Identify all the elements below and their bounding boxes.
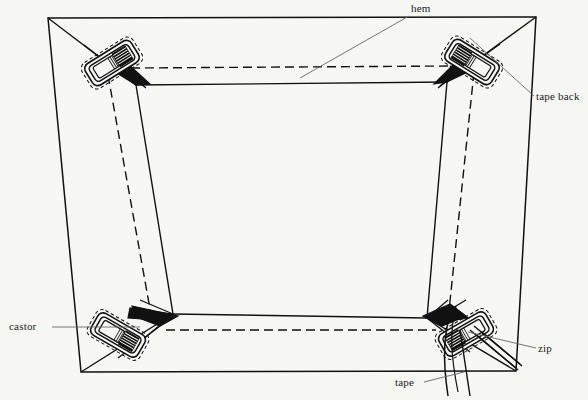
label-tape: tape [395,376,414,388]
castor-top-right [439,33,506,90]
hidden-hem-dashed-lines [108,66,474,330]
label-tape-back: tape back [536,90,580,102]
label-hem: hem [411,2,431,14]
label-castor: castor [9,320,36,332]
corner-gussets [112,62,472,326]
technical-drawing-svg [0,0,588,400]
leader-tape [424,372,464,382]
inner-panel-outline [136,82,447,318]
diagram-canvas: hem tape back castor zip tape [0,0,588,400]
label-zip: zip [538,342,552,354]
leader-hem [300,16,409,78]
